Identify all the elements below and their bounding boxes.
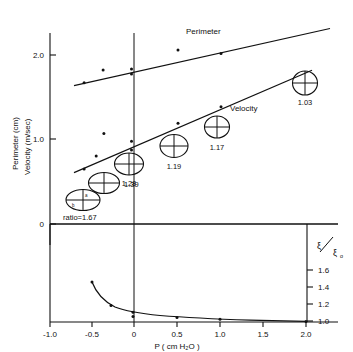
perimeter-point xyxy=(130,67,133,70)
x-axis-title: P ( cm H₂O ) xyxy=(154,342,200,351)
ellipse-glyph-1-28 xyxy=(115,153,144,175)
velocity-point xyxy=(102,132,105,135)
velocity-point xyxy=(177,122,180,125)
ratio-ytick-label-16: 1.6 xyxy=(318,266,330,275)
ratio-point xyxy=(132,315,135,318)
xtick-label-10: 1.0 xyxy=(214,330,226,339)
ratio-axis-title: ξ ξ o xyxy=(317,237,343,259)
xtick-label-n10: -1.0 xyxy=(43,330,57,339)
y-axis-title-velocity: Velocity (m/sec) xyxy=(23,118,32,175)
xtick-label-15: 1.5 xyxy=(257,330,269,339)
perimeter-point xyxy=(220,52,223,55)
ratio-point xyxy=(176,316,179,319)
ratio-point xyxy=(219,318,222,321)
perimeter-fit-line xyxy=(74,29,330,86)
upper-ytick-label-0: 0 xyxy=(40,220,45,229)
ratio-axis-subscript: o xyxy=(340,253,343,259)
ellipse-label-1-19: 1.19 xyxy=(167,162,182,171)
upper-ytick-label-1: 1.0 xyxy=(33,135,45,144)
ratio-point xyxy=(110,304,113,307)
ratio-axis-denominator: ξ xyxy=(333,248,337,258)
perimeter-point xyxy=(130,73,133,76)
ellipse-glyph-1-39 xyxy=(89,173,120,194)
velocity-point xyxy=(130,148,133,151)
ratio-ytick-label-14: 1.4 xyxy=(318,283,330,292)
figure-root: 2.0 1.0 0 Perimeter (cm) Velocity (m/sec… xyxy=(0,0,353,352)
velocity-point xyxy=(220,105,223,108)
velocity-point xyxy=(95,155,98,158)
xtick-label-n05: -0.5 xyxy=(85,330,99,339)
ellipse-glyph-1-03 xyxy=(293,71,318,95)
velocity-point xyxy=(83,168,86,171)
ratio-curve xyxy=(92,282,306,321)
ellipse-label-1-28: 1.28 xyxy=(122,179,137,188)
ellipse-glyph-1-19 xyxy=(160,135,188,158)
velocity-point xyxy=(130,140,133,143)
ratio-annotation-label: ratio=1.67 xyxy=(63,213,97,222)
upper-ytick-label-2: 2.0 xyxy=(33,51,45,60)
ratio-axis-numerator: ξ xyxy=(317,241,321,251)
ratio-point xyxy=(132,311,135,314)
ellipse-glyph-1-67: a b xyxy=(66,190,100,211)
ratio-point xyxy=(305,320,308,323)
velocity-fit-line xyxy=(74,70,312,172)
ratio-axis-slash xyxy=(320,237,333,252)
y-axis-title-perimeter: Perimeter (cm) xyxy=(11,117,20,170)
ratio-ytick-label-12: 1.2 xyxy=(318,300,330,309)
velocity-series-label: Velocity xyxy=(230,104,258,113)
xtick-label-05: 0.5 xyxy=(171,330,183,339)
xtick-label-20: 2.0 xyxy=(300,330,312,339)
ellipse-axis-label-a: a xyxy=(85,193,88,198)
ellipse-label-1-17: 1.17 xyxy=(210,143,225,152)
ratio-point xyxy=(91,281,94,284)
perimeter-series-label: Perimeter xyxy=(186,27,221,36)
perimeter-point xyxy=(83,81,86,84)
xtick-label-0: 0 xyxy=(132,330,137,339)
perimeter-point xyxy=(177,49,180,52)
figure-svg: 2.0 1.0 0 Perimeter (cm) Velocity (m/sec… xyxy=(0,0,353,352)
ellipse-glyph-1-17 xyxy=(205,116,230,138)
ellipse-label-1-03: 1.03 xyxy=(298,98,313,107)
perimeter-point xyxy=(102,68,105,71)
ellipse-axis-label-b: b xyxy=(72,203,75,208)
ratio-ytick-label-10: 1.0 xyxy=(318,317,330,326)
